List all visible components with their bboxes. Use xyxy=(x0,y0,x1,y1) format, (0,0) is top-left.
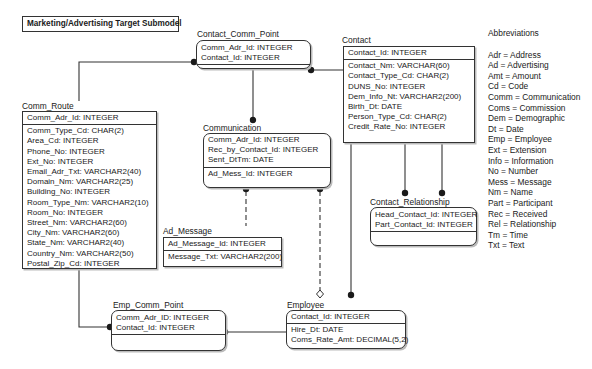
abbreviation-item: Mess = Message xyxy=(488,177,580,188)
attribute-field: Country_Nm: VARCHAR2(50) xyxy=(27,249,152,259)
attribute-field: Room_No: INTEGER xyxy=(27,208,152,218)
entity-label-communication: Communication xyxy=(203,123,261,133)
abbreviation-item: Part = Participant xyxy=(488,198,580,209)
rel-commroute-contactcommpoint xyxy=(79,62,196,101)
attribute-field: Person_Type_Cd: CHAR(2) xyxy=(348,112,470,122)
abbreviation-item: Nm = Name xyxy=(488,187,580,198)
abbreviation-item: Emp = Employee xyxy=(488,134,580,145)
abbreviation-item: Comm = Communication xyxy=(488,92,580,103)
key-field: Comm_Adr_ID: INTEGER xyxy=(116,313,221,323)
attribute-field: Postal_Zip_Cd: INTEGER xyxy=(27,259,152,269)
entity-label-contact-relationship: Contact_Relationship xyxy=(370,197,450,207)
abbreviation-item: Tm = Time xyxy=(488,230,580,241)
entity-attributes: Contact_Nm: VARCHAR(60) Contact_Type_Cd:… xyxy=(344,60,474,133)
abbreviations-legend: Abbreviations Adr = Address Ad = Adverti… xyxy=(488,28,580,251)
abbreviation-item: Rel = Relationship xyxy=(488,219,580,230)
key-field: Comm_Adr_Id: INTEGER xyxy=(201,43,306,53)
key-field: Part_Contact_Id: INTEGER xyxy=(375,220,472,230)
entity-contact-comm-point: Comm_Adr_Id: INTEGER Contact_Id: INTEGER xyxy=(196,40,311,69)
abbreviation-item: Ext = Extension xyxy=(488,145,580,156)
entity-keys: Comm_Adr_Id: INTEGER xyxy=(23,112,156,125)
entity-contact-relationship: Head_Contact_Id: INTEGER Part_Contact_Id… xyxy=(370,207,477,246)
entity-keys: Comm_Adr_ID: INTEGER Contact_Id: INTEGER xyxy=(112,311,225,335)
entity-emp-comm-point: Comm_Adr_ID: INTEGER Contact_Id: INTEGER xyxy=(111,310,226,351)
attribute-field: Area_Cd: INTEGER xyxy=(27,136,152,146)
abbreviation-item: Cd = Code xyxy=(488,81,580,92)
entity-keys: Contact_Id: INTEGER xyxy=(344,47,474,60)
attribute-field: Email_Adr_Txt: VARCHAR2(40) xyxy=(27,167,152,177)
key-field: Comm_Adr_Id: INTEGER xyxy=(27,113,152,123)
entity-attributes: Comm_Type_Cd: CHAR(2) Area_Cd: INTEGER P… xyxy=(23,125,156,270)
entity-attributes: Hire_Dt: DATE Coms_Rate_Amt: DECIMAL(5,2… xyxy=(287,324,405,346)
dot-employee-top xyxy=(348,292,354,298)
abbreviation-item: Info = Information xyxy=(488,156,580,167)
entity-attributes: Ad_Mess_Id: INTEGER xyxy=(204,168,330,180)
abbreviation-item: Adr = Address xyxy=(488,50,580,61)
attribute-field: Contact_Type_Cd: CHAR(2) xyxy=(348,71,470,81)
entity-communication: Comm_Adr_Id: INTEGER Rec_by_Contact_Id: … xyxy=(203,133,331,188)
abbreviation-item: Amt = Amount xyxy=(488,71,580,82)
diamond-employee xyxy=(317,290,324,298)
key-field: Contact_Id: INTEGER xyxy=(348,48,470,58)
attribute-field: Credit_Rate_No: INTEGER xyxy=(348,122,470,132)
entity-label-contact-comm-point: Contact_Comm_Point xyxy=(197,29,279,39)
key-field: Contact_Id: INTEGER xyxy=(116,323,221,333)
entity-keys: Comm_Adr_Id: INTEGER Rec_by_Contact_Id: … xyxy=(204,134,330,168)
key-field: Sent_DtTm: DATE xyxy=(208,155,326,165)
dot-contactrel-head xyxy=(402,190,408,196)
abbreviation-item: Txt = Text xyxy=(488,240,580,251)
key-field: Head_Contact_Id: INTEGER xyxy=(375,210,472,220)
entity-attributes: Message_Txt: VARCHAR2(200) xyxy=(164,251,281,263)
attribute-field: Building_No: INTEGER xyxy=(27,187,152,197)
entity-ad-message: Ad_Message_Id: INTEGER Message_Txt: VARC… xyxy=(163,237,282,267)
key-field: Contact_Id: INTEGER xyxy=(291,312,401,322)
diagram-title: Marketing/Advertising Target Submodel xyxy=(22,16,179,32)
entity-label-employee: Employee xyxy=(287,300,324,310)
key-field: Contact_Id: INTEGER xyxy=(201,53,306,63)
abbreviations-title: Abbreviations xyxy=(488,28,580,39)
entity-keys: Contact_Id: INTEGER xyxy=(287,311,405,324)
attribute-field: Ad_Mess_Id: INTEGER xyxy=(208,169,326,179)
attribute-field: Hire_Dt: DATE xyxy=(291,325,401,335)
attribute-field: Street_Nm: VARCHAR2(60) xyxy=(27,218,152,228)
entity-label-comm-route: Comm_Route xyxy=(22,101,74,111)
attribute-field: State_Nm: VARCHAR2(40) xyxy=(27,238,152,248)
entity-label-emp-comm-point: Emp_Comm_Point xyxy=(113,300,183,310)
attribute-field: Birth_Dt: DATE xyxy=(348,102,470,112)
entity-employee: Contact_Id: INTEGER Hire_Dt: DATE Coms_R… xyxy=(286,310,406,349)
entity-comm-route: Comm_Adr_Id: INTEGER Comm_Type_Cd: CHAR(… xyxy=(22,111,157,269)
abbreviation-item: Dem = Demographic xyxy=(488,113,580,124)
attribute-field: Comm_Type_Cd: CHAR(2) xyxy=(27,126,152,136)
key-field: Comm_Adr_Id: INTEGER xyxy=(208,135,326,145)
abbreviation-item: No = Number xyxy=(488,166,580,177)
key-field: Rec_by_Contact_Id: INTEGER xyxy=(208,145,326,155)
abbreviation-item: Dt = Date xyxy=(488,124,580,135)
entity-keys: Head_Contact_Id: INTEGER Part_Contact_Id… xyxy=(371,208,476,232)
attribute-field: Dem_Info_Nt: VARCHAR2(200) xyxy=(348,92,470,102)
entity-contact: Contact_Id: INTEGER Contact_Nm: VARCHAR(… xyxy=(343,46,475,143)
entity-label-contact: Contact xyxy=(342,35,371,45)
dot-contactcommpoint-right xyxy=(308,67,314,73)
attribute-field: Ext_No: INTEGER xyxy=(27,157,152,167)
attribute-field: City_Nm: VARCHAR2(60) xyxy=(27,228,152,238)
attribute-field: Domain_Nm: VARCHAR2(25) xyxy=(27,177,152,187)
attribute-field: Coms_Rate_Amt: DECIMAL(5,2) xyxy=(291,335,401,345)
rel-commroute-empcommpoint xyxy=(79,268,111,327)
key-field: Ad_Message_Id: INTEGER xyxy=(168,239,277,249)
attribute-field: Contact_Nm: VARCHAR(60) xyxy=(348,61,470,71)
entity-keys: Comm_Adr_Id: INTEGER Contact_Id: INTEGER xyxy=(197,41,310,65)
abbreviation-item: Rec = Received xyxy=(488,209,580,220)
attribute-field: DUNS_No: INTEGER xyxy=(348,82,470,92)
attribute-field: Message_Txt: VARCHAR2(200) xyxy=(168,252,277,262)
abbreviation-item: Ad = Advertising xyxy=(488,60,580,71)
attribute-field: Phone_No: INTEGER xyxy=(27,147,152,157)
abbreviation-item: Coms = Commission xyxy=(488,103,580,114)
dot-contactrel-part xyxy=(439,190,445,196)
attribute-field: Room_Type_Nm: VARCHAR2(10) xyxy=(27,198,152,208)
entity-keys: Ad_Message_Id: INTEGER xyxy=(164,238,281,251)
entity-label-ad-message: Ad_Message xyxy=(163,226,212,236)
